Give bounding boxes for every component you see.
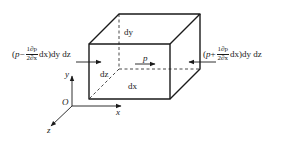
right-face-edges: [170, 14, 200, 99]
top-face-edges: [89, 14, 200, 44]
dx-label: dx: [128, 82, 137, 91]
pressure-label: p: [143, 54, 148, 63]
z-axis-label: z: [47, 126, 51, 135]
fluid-element-diagram: dy dz dx p ( p − 1∂p 2∂x dx)dy dz ( p + …: [0, 0, 285, 144]
z-axis: [51, 106, 72, 126]
origin-label: O: [62, 98, 69, 107]
right-force-operator: +: [211, 50, 216, 59]
right-force-fraction: 1∂p 2∂x: [217, 46, 229, 62]
x-axis-label: x: [116, 108, 120, 117]
y-axis-label: y: [65, 70, 69, 79]
left-force-label: ( p − 1∂p 2∂x dx)dy dz: [12, 46, 71, 62]
right-force-tail: dx)dy dz: [230, 50, 262, 59]
right-force-fraction-denominator: 2∂x: [218, 55, 228, 63]
dy-label: dy: [124, 28, 133, 37]
left-force-fraction: 1∂p 2∂x: [26, 46, 38, 62]
left-force-tail: dx)dy dz: [39, 50, 71, 59]
left-force-fraction-denominator: 2∂x: [27, 55, 37, 63]
right-force-label: ( p + 1∂p 2∂x dx)dy dz: [203, 46, 262, 62]
diagram-graphics: [0, 0, 285, 144]
left-force-operator: −: [20, 50, 25, 59]
dz-label: dz: [100, 70, 109, 79]
